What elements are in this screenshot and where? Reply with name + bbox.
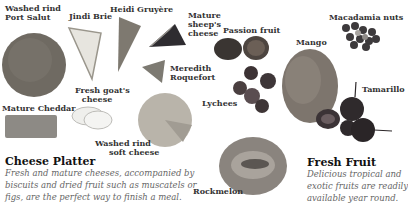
lychees-image	[244, 66, 258, 80]
tamarillo-image	[340, 97, 364, 121]
label-mango: Mango	[296, 38, 327, 47]
macadamia-nuts-image	[342, 22, 380, 51]
label-macadamia-nuts: Macadamia nuts	[329, 13, 403, 22]
label-washed-rind-soft-cheese: Washed rind soft cheese	[95, 139, 159, 157]
passion-fruit-image	[214, 38, 242, 60]
label-lychees: Lychees	[202, 99, 237, 108]
label-passion-fruit: Passion fruit	[223, 26, 280, 35]
label-tamarillo: Tamarillo	[362, 85, 405, 94]
fresh-fruit-description: Delicious tropical and exotic fruits are…	[307, 168, 408, 204]
cheddar-image	[5, 115, 57, 138]
jindi-brie-image	[69, 28, 101, 79]
label-washed-rind-port-salut: Washed rind Port Salut	[5, 4, 61, 22]
label-fresh-goats-cheese: Fresh goat's cheese	[75, 86, 119, 104]
label-jindi-brie: Jindi Brie	[69, 12, 112, 21]
label-mature-cheddar: Mature Cheddar	[2, 104, 76, 113]
roquefort-image	[142, 60, 165, 83]
label-heidi-gruyere: Heidi Gruyère	[110, 5, 173, 14]
label-meredith-roquefort: Meredith Roquefort	[170, 64, 215, 82]
cheese-platter-description: Fresh and mature cheeses, accompanied by…	[5, 167, 197, 203]
goats-cheese-image	[84, 111, 112, 129]
label-mature-sheeps-cheese: Mature sheep's cheese	[188, 11, 221, 38]
label-rockmelon: Rockmelon	[193, 187, 243, 196]
heidi-gruyere-image	[118, 17, 141, 72]
